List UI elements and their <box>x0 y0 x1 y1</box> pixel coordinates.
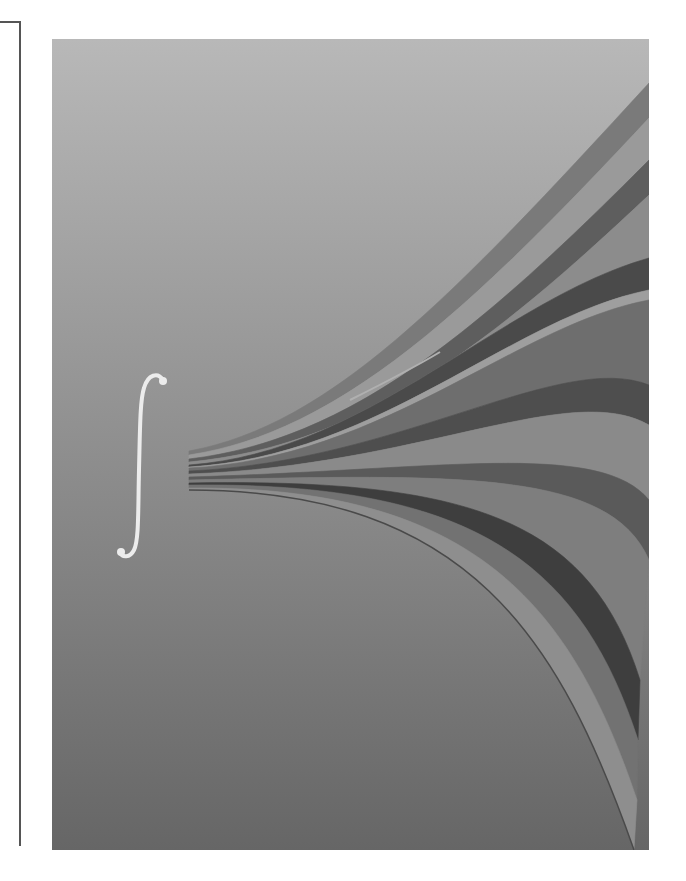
cover-illustration <box>0 0 686 881</box>
